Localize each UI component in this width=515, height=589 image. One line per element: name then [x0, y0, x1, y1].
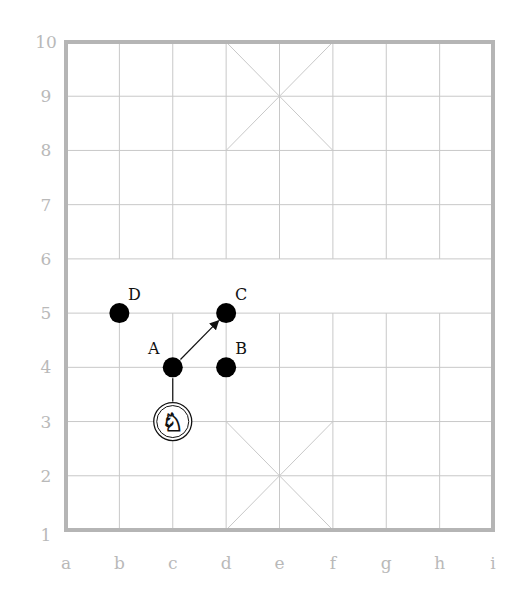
file-label-i: i [490, 553, 496, 573]
horse-piece: ♘ [154, 403, 192, 441]
point-marker [216, 303, 236, 323]
xiangqi-board: abcdefghi 12345678910 ABCD ♘ [0, 0, 515, 589]
point-marker [216, 357, 236, 377]
rank-label-8: 8 [41, 140, 52, 160]
rank-label-4: 4 [41, 357, 52, 377]
file-label-d: d [221, 553, 232, 573]
file-label-a: a [61, 553, 71, 573]
file-label-b: b [114, 553, 125, 573]
point-d: D [109, 285, 140, 323]
rank-label-7: 7 [41, 195, 52, 215]
rank-label-9: 9 [41, 86, 52, 106]
rank-label-1: 1 [41, 525, 52, 545]
file-label-g: g [381, 553, 392, 573]
move-arrow [180, 321, 218, 360]
file-label-f: f [330, 553, 338, 573]
point-a: A [147, 339, 183, 377]
point-b: B [216, 339, 247, 377]
knight-icon: ♘ [162, 408, 184, 437]
rank-labels: 12345678910 [35, 32, 57, 545]
rank-label-5: 5 [41, 303, 52, 323]
file-labels: abcdefghi [61, 553, 496, 573]
board-pieces: ♘ [154, 403, 192, 441]
point-label: D [128, 285, 141, 304]
file-label-h: h [434, 553, 445, 573]
point-marker [163, 357, 183, 377]
point-c: C [216, 285, 247, 323]
file-label-e: e [274, 553, 284, 573]
rank-label-2: 2 [41, 466, 52, 486]
point-label: B [235, 339, 247, 358]
point-label: C [235, 285, 247, 304]
rank-label-3: 3 [41, 412, 52, 432]
point-marker [109, 303, 129, 323]
point-label: A [147, 339, 160, 358]
rank-label-6: 6 [41, 249, 52, 269]
file-label-c: c [168, 553, 178, 573]
rank-label-10: 10 [35, 32, 57, 52]
